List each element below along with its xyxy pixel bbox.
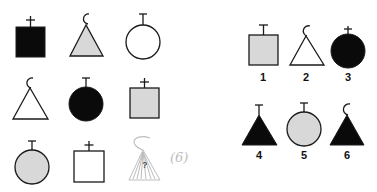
puzzle-canvas (0, 0, 377, 192)
option-2[interactable] (290, 26, 324, 65)
plus-icon (85, 141, 94, 151)
gray-square-shape (249, 35, 278, 65)
t-bar-icon (82, 78, 90, 87)
hook-icon (303, 26, 310, 36)
matrix-cell-r1c3 (126, 14, 160, 59)
matrix-cell-r1c2 (70, 14, 103, 56)
black-triangle-shape (242, 115, 277, 145)
option-label-1: 1 (256, 71, 270, 83)
t-bar-icon (28, 141, 36, 150)
option-5[interactable] (287, 103, 321, 146)
gray-triangle-shape (70, 25, 103, 56)
hook-icon (27, 78, 33, 88)
option-1[interactable] (249, 25, 278, 65)
hook-icon (83, 14, 89, 24)
white-triangle-shape (13, 88, 48, 119)
matrix-cell-r3c2 (74, 141, 104, 182)
white-circle-shape (126, 25, 160, 59)
matrix-cell-r2c3 (130, 78, 159, 118)
matrix-cell-r2c1 (13, 78, 48, 119)
white-square-shape (74, 151, 104, 182)
handwritten-answer: (6) (170, 150, 188, 165)
gray-circle-shape (15, 150, 49, 184)
gray-circle-shape (287, 112, 321, 146)
sketched-hook-icon (134, 137, 150, 150)
plus-icon (344, 26, 352, 34)
option-4[interactable] (242, 105, 277, 145)
hook-icon (343, 104, 350, 115)
plus-icon (26, 16, 35, 27)
black-circle-shape (331, 34, 365, 68)
matrix-cell-r1c1 (16, 16, 45, 57)
t-bar-icon (255, 105, 263, 115)
matrix-cell-r2c2 (69, 78, 103, 121)
option-3[interactable] (331, 26, 365, 68)
option-label-5: 5 (297, 149, 311, 161)
matrix-cell-r3c1 (15, 141, 49, 184)
black-circle-shape (69, 87, 103, 121)
question-mark: ? (142, 160, 148, 170)
option-label-2: 2 (299, 71, 313, 83)
option-label-3: 3 (341, 71, 355, 83)
t-bar-icon (139, 14, 147, 25)
gray-square-shape (130, 88, 159, 118)
matrix-cell-r3c3-missing (129, 137, 160, 180)
option-label-6: 6 (340, 149, 354, 161)
white-triangle-shape (290, 36, 324, 65)
option-label-4: 4 (252, 149, 266, 161)
t-bar-icon (300, 103, 308, 112)
plus-icon (140, 78, 149, 88)
black-square-shape (16, 27, 45, 57)
t-bar-icon (259, 25, 268, 35)
black-triangle-shape (330, 115, 364, 145)
option-6[interactable] (330, 104, 364, 145)
